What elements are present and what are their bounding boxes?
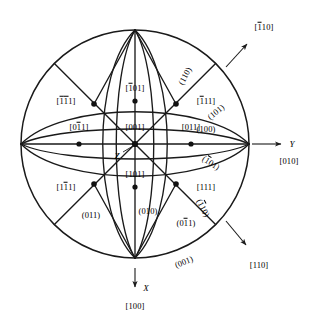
chord-se-bottom (135, 184, 176, 258)
arrow-110 (226, 221, 246, 245)
arrow-1bar10 (226, 44, 247, 67)
chord-nw-top (94, 30, 135, 104)
axis-arrows (123, 44, 281, 287)
pole-dot-011 (188, 141, 193, 146)
pole-dot-101 (132, 184, 137, 189)
chord-sw-bottom (94, 184, 135, 258)
pole-dot-barbar111 (91, 101, 97, 107)
pole-dot-111 (173, 181, 179, 187)
pole-dot-bar101 (132, 98, 137, 103)
pole-dot-0bar11 (76, 141, 81, 146)
chord-ne-top (135, 30, 176, 104)
pole-dot-bar111 (173, 101, 179, 107)
stereographic-projection-figure (0, 0, 318, 328)
pole-dot-1bar11 (91, 181, 97, 187)
